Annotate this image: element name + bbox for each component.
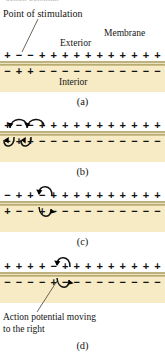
charge-sign: + <box>3 261 12 271</box>
panel-b-inner-charges: −++−−−−−−−−−−− <box>0 136 165 146</box>
panel-a-caption: (a) <box>0 96 165 107</box>
charge-sign: + <box>3 120 12 130</box>
panel-c-caption: (c) <box>0 236 165 247</box>
panel-a-outer-charges: +−−+++++++++++ <box>0 50 165 60</box>
charge-sign: + <box>95 120 104 130</box>
charge-sign: + <box>49 50 58 60</box>
charge-sign: + <box>153 50 162 60</box>
charge-sign: − <box>153 136 162 146</box>
panel-b-outer-charges: +−−+++++++++++ <box>0 120 165 130</box>
charge-sign: + <box>61 261 70 271</box>
panel-c-outer-charges: −++−++++++++++ <box>0 190 165 200</box>
charge-sign: − <box>38 190 47 200</box>
panel-d-outer-charges: ++++−+++++++++ <box>0 261 165 271</box>
cropped-header-text: action potential <box>6 0 59 1</box>
charge-sign: − <box>95 206 104 216</box>
charge-sign: + <box>118 190 127 200</box>
action-potential-figure: action potential Point of stimulation Ex… <box>0 0 165 356</box>
charge-sign: − <box>141 206 150 216</box>
charge-sign: + <box>107 190 116 200</box>
charge-sign: − <box>107 206 116 216</box>
charge-sign: − <box>49 66 58 76</box>
charge-sign: − <box>3 277 12 287</box>
charge-sign: − <box>107 277 116 287</box>
charge-sign: − <box>141 66 150 76</box>
charge-sign: − <box>72 277 81 287</box>
panel-b: +−−+++++++++++ −++−−−−−−−−−−− <box>0 120 165 162</box>
charge-sign: + <box>107 120 116 130</box>
charge-sign: + <box>118 120 127 130</box>
membrane-label: Membrane <box>104 28 145 38</box>
charge-sign: − <box>49 136 58 146</box>
panel-c: −++−++++++++++ +−−+−−−−−−−−−− <box>0 190 165 232</box>
charge-sign: − <box>26 206 35 216</box>
charge-sign: − <box>84 206 93 216</box>
charge-sign: + <box>153 261 162 271</box>
charge-sign: − <box>3 136 12 146</box>
charge-sign: − <box>15 277 24 287</box>
charge-sign: − <box>107 136 116 146</box>
panel-c-inner-charges: +−−+−−−−−−−−−− <box>0 206 165 216</box>
charge-sign: − <box>15 120 24 130</box>
charge-sign: + <box>118 261 127 271</box>
charge-sign: + <box>130 50 139 60</box>
action-potential-label-line2-wrap: to the right <box>3 324 45 334</box>
charge-sign: + <box>38 261 47 271</box>
charge-sign: + <box>153 120 162 130</box>
charge-sign: + <box>26 136 35 146</box>
charge-sign: + <box>49 120 58 130</box>
charge-sign: − <box>153 66 162 76</box>
charge-sign: − <box>15 206 24 216</box>
charge-sign: + <box>95 190 104 200</box>
charge-sign: − <box>72 206 81 216</box>
charge-sign: + <box>49 190 58 200</box>
action-potential-label-line1: Action potential moving <box>3 312 96 322</box>
action-potential-label-line2: to the right <box>3 324 45 334</box>
charge-sign: − <box>95 136 104 146</box>
charge-sign: − <box>61 277 70 287</box>
panel-a-inner-charges: −++−−−−−−−−−−− <box>0 66 165 76</box>
charge-sign: − <box>153 277 162 287</box>
charge-sign: − <box>61 66 70 76</box>
charge-sign: + <box>61 120 70 130</box>
charge-sign: + <box>95 50 104 60</box>
charge-sign: + <box>107 261 116 271</box>
panel-d-inner-charges: −−−−+−−−−−−−−− <box>0 277 165 287</box>
charge-sign: + <box>84 120 93 130</box>
charge-sign: − <box>153 206 162 216</box>
charge-sign: − <box>3 66 12 76</box>
charge-sign: − <box>61 136 70 146</box>
charge-sign: + <box>84 190 93 200</box>
panel-b-caption: (b) <box>0 166 165 177</box>
charge-sign: − <box>95 277 104 287</box>
charge-sign: − <box>26 120 35 130</box>
charge-sign: + <box>141 190 150 200</box>
charge-sign: + <box>141 120 150 130</box>
charge-sign: + <box>15 190 24 200</box>
charge-sign: + <box>26 261 35 271</box>
charge-sign: − <box>38 66 47 76</box>
charge-sign: + <box>38 50 47 60</box>
charge-sign: − <box>95 66 104 76</box>
charge-sign: − <box>118 66 127 76</box>
charge-sign: + <box>130 261 139 271</box>
charge-sign: + <box>38 206 47 216</box>
exterior-label: Exterior <box>60 38 91 48</box>
charge-sign: − <box>118 206 127 216</box>
interior-label: Interior <box>59 77 88 87</box>
charge-sign: − <box>38 136 47 146</box>
charge-sign: + <box>72 261 81 271</box>
charge-sign: − <box>130 206 139 216</box>
charge-sign: − <box>107 66 116 76</box>
charge-sign: − <box>72 136 81 146</box>
charge-sign: + <box>141 261 150 271</box>
charge-sign: − <box>141 136 150 146</box>
charge-sign: + <box>118 50 127 60</box>
charge-sign: − <box>72 66 81 76</box>
charge-sign: − <box>141 277 150 287</box>
charge-sign: + <box>130 120 139 130</box>
charge-sign: + <box>38 120 47 130</box>
charge-sign: − <box>49 261 58 271</box>
charge-sign: + <box>49 277 58 287</box>
action-potential-label: Action potential moving <box>3 312 96 322</box>
